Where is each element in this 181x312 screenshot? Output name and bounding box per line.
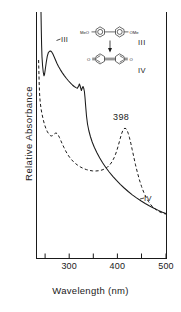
leader-line-iii xyxy=(57,39,61,41)
reaction-arrow-icon xyxy=(108,41,112,53)
atom-label-o-left: O xyxy=(87,57,90,62)
curve-label-iv: IV xyxy=(144,194,152,203)
structure-iv xyxy=(92,54,128,64)
axis-frame xyxy=(36,12,167,259)
curve-compound-iii xyxy=(41,12,167,214)
curve-compound-iv xyxy=(39,60,167,214)
x-tick-label-400: 400 xyxy=(103,261,131,271)
x-tick-label-500: 500 xyxy=(152,261,180,271)
atom-label-ome: OMe xyxy=(130,30,139,35)
x-axis-ticks xyxy=(45,254,166,259)
x-axis-title: Wavelength (nm) xyxy=(0,285,181,296)
structure-iii xyxy=(92,27,129,37)
atom-label-o-right: O xyxy=(130,57,133,62)
inset-label-iv: IV xyxy=(138,66,146,75)
uv-vis-absorbance-figure: Relative Absorbance xyxy=(0,0,181,312)
peak-label-398: 398 xyxy=(113,112,129,122)
atom-label-meo: MeO xyxy=(80,30,89,35)
inset-label-iii: III xyxy=(138,38,146,47)
x-tick-label-300: 300 xyxy=(55,261,83,271)
curve-label-iii: III xyxy=(61,35,68,44)
inset-chemical-structures xyxy=(92,27,129,64)
